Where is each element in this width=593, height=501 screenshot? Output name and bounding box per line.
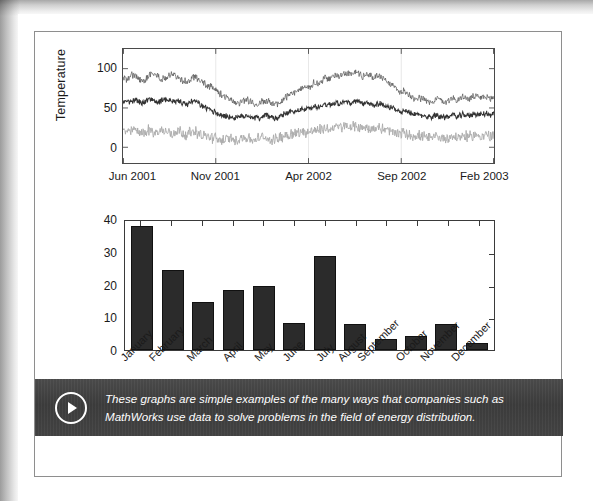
temperature-line-chart: Temperature 050100 Jun 2001Nov 2001Apr 2… [35,34,563,209]
bar-chart-tick-mark [233,221,234,226]
bar-chart-y-tick-40: 40 [104,213,117,227]
bar-chart-y-tick-30: 30 [104,246,117,260]
bar-slot [188,221,218,350]
bar-slot [279,221,309,350]
caption-bar: These graphs are simple examples of the … [35,379,563,436]
line-chart-y-tick-100: 100 [97,61,117,75]
caption-text: These graphs are simple examples of the … [105,390,549,426]
line-chart-y-tick-0: 0 [110,141,117,155]
bar-chart-tick-mark [448,221,449,226]
line-chart-svg [123,49,494,163]
line-chart-plot-area [122,48,495,164]
monthly-bar-chart: 010203040 JanuaryFebruaryMarchAprilMayJu… [35,208,563,398]
bar-chart-tick-mark [294,221,295,226]
play-triangle-icon [68,402,77,414]
line-chart-x-tick-label: Feb 2003 [460,170,509,182]
bar-chart-tick-mark [202,221,203,226]
bar-chart-tick-mark [140,221,141,226]
bar-chart-tick-mark [489,319,494,320]
bar-july [314,256,336,350]
bar-chart-tick-mark [386,221,387,226]
bar-chart-tick-mark [263,221,264,226]
bar-chart-y-tick-0: 0 [110,344,117,358]
bar-chart-tick-mark [356,221,357,226]
line-chart-x-tick-label: Jun 2001 [109,170,156,182]
bar-slot [340,221,370,350]
bar-slot [249,221,279,350]
bar-chart-y-tick-20: 20 [104,279,117,293]
bar-chart-tick-mark [325,221,326,226]
bar-chart-tick-mark [489,287,494,288]
bar-chart-y-tick-labels: 010203040 [65,220,117,351]
bar-slot [310,221,340,350]
play-circle-icon[interactable] [55,392,87,424]
line-chart-x-tick-label: Apr 2002 [285,170,332,182]
line-chart-y-tick-50: 50 [104,101,117,115]
bar-chart-tick-mark [479,221,480,226]
bar-slot [218,221,248,350]
line-chart-x-tick-label: Nov 2001 [191,170,240,182]
bar-chart-tick-mark [489,254,494,255]
line-chart-x-tick-label: Sep 2002 [377,170,426,182]
bar-chart-tick-mark [171,221,172,226]
bar-chart-tick-mark [417,221,418,226]
bar-may [253,286,275,350]
line-chart-y-tick-labels: 050100 [65,48,117,164]
figure-frame: Temperature 050100 Jun 2001Nov 2001Apr 2… [34,31,562,477]
line-chart-x-tick-labels: Jun 2001Nov 2001Apr 2002Sep 2002Feb 2003 [122,170,495,190]
bar-chart-y-tick-10: 10 [104,311,117,325]
